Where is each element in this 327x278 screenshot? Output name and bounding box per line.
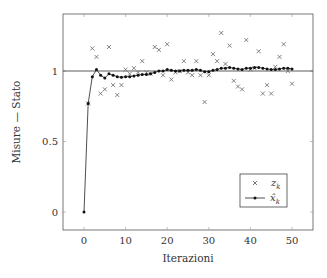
estimate-point xyxy=(257,66,260,69)
measurement-marker-icon xyxy=(153,45,157,49)
estimate-point xyxy=(112,74,115,77)
estimate-point xyxy=(191,69,194,72)
estimate-point xyxy=(220,67,223,70)
measurement-marker-icon xyxy=(182,59,186,63)
estimate-point xyxy=(232,67,235,70)
measurement-marker-icon xyxy=(240,87,244,91)
measurement-marker-icon xyxy=(244,38,248,42)
estimate-point xyxy=(207,70,210,73)
estimate-point xyxy=(203,70,206,73)
estimate-point xyxy=(270,68,273,71)
estimate-point xyxy=(216,68,219,71)
x-tick-label: 0 xyxy=(81,235,87,246)
measurement-marker-icon xyxy=(194,59,198,63)
measurement-marker-icon xyxy=(215,59,219,63)
measurement-marker-icon xyxy=(115,93,119,97)
measurement-marker-icon xyxy=(236,85,240,89)
x-tick-label: 10 xyxy=(119,235,132,246)
measurement-marker-icon xyxy=(111,83,115,87)
estimate-point xyxy=(141,73,144,76)
measurement-marker-icon xyxy=(140,59,144,63)
axis-ticks: 0102030405000.51 xyxy=(42,14,313,246)
measurement-marker-icon xyxy=(94,55,98,59)
y-axis-label: Misure — Stato xyxy=(10,81,22,164)
x-tick-label: 50 xyxy=(286,235,299,246)
estimate-point xyxy=(170,69,173,72)
estimate-point xyxy=(187,69,190,72)
estimate-point xyxy=(286,67,289,70)
estimate-point xyxy=(120,76,123,79)
x-tick-label: 40 xyxy=(244,235,257,246)
estimate-point xyxy=(87,102,90,105)
estimate-point xyxy=(83,211,86,214)
measurement-marker-icon xyxy=(90,46,94,50)
measurement-marker-icon xyxy=(219,31,223,35)
chart: 0102030405000.51 Iterazioni Misure — Sta… xyxy=(0,0,327,278)
estimate-point xyxy=(132,74,135,77)
estimate-point xyxy=(278,67,281,70)
estimate-point xyxy=(261,67,264,70)
estimate-point xyxy=(153,71,156,74)
estimate-point xyxy=(128,75,131,78)
estimate-point xyxy=(103,77,106,80)
measurement-marker-icon xyxy=(161,73,165,77)
estimate-point xyxy=(236,67,239,70)
legend: zk x̂k xyxy=(240,174,287,207)
measurement-marker-icon xyxy=(103,87,107,91)
estimate-point xyxy=(107,72,110,75)
estimate-point xyxy=(124,75,127,78)
estimate-point xyxy=(137,74,140,77)
estimate-point xyxy=(195,68,198,71)
measurement-marker-icon xyxy=(223,62,227,66)
measurement-marker-icon xyxy=(278,55,282,59)
measurement-marker-icon xyxy=(211,52,215,56)
measurement-marker-icon xyxy=(198,73,202,77)
estimate-point xyxy=(245,67,248,70)
estimate-point xyxy=(95,68,98,71)
measurement-marker-icon xyxy=(282,42,286,46)
measurement-marker-icon xyxy=(207,73,211,77)
estimate-point xyxy=(211,69,214,72)
estimate-point xyxy=(182,69,185,72)
x-tick-label: 30 xyxy=(202,235,215,246)
estimate-point xyxy=(145,73,148,76)
estimate-point xyxy=(224,67,227,70)
measurement-marker-icon xyxy=(157,48,161,52)
estimate-point xyxy=(274,68,277,71)
measurement-marker-icon xyxy=(165,42,169,46)
estimate-point xyxy=(253,66,256,69)
measurement-marker-icon xyxy=(99,92,103,96)
measurement-marker-icon xyxy=(257,49,261,53)
estimate-point xyxy=(249,67,252,70)
measurement-marker-icon xyxy=(269,92,273,96)
estimate-point xyxy=(282,67,285,70)
estimate-point xyxy=(166,68,169,71)
measurement-marker-icon xyxy=(119,83,123,87)
y-tick-label: 0 xyxy=(52,207,58,218)
y-tick-label: 0.5 xyxy=(42,136,58,147)
legend-box xyxy=(240,174,287,207)
y-tick-label: 1 xyxy=(52,66,58,77)
estimate-point xyxy=(291,67,294,70)
estimate-point xyxy=(116,75,119,78)
estimate-point xyxy=(174,70,177,73)
x-tick-label: 20 xyxy=(161,235,174,246)
measurement-marker-icon xyxy=(265,83,269,87)
estimate-point xyxy=(178,70,181,73)
measurement-marker-icon xyxy=(261,92,265,96)
estimate-point xyxy=(199,69,202,72)
x-axis-label: Iterazioni xyxy=(162,252,214,264)
measurement-marker-icon xyxy=(132,66,136,70)
estimate-point xyxy=(241,68,244,71)
estimate-point xyxy=(162,70,165,73)
measurement-marker-icon xyxy=(232,79,236,83)
estimate-point xyxy=(99,74,102,77)
measurement-marker-icon xyxy=(290,82,294,86)
measurement-marker-icon xyxy=(107,45,111,49)
estimate-point xyxy=(149,72,152,75)
estimate-point xyxy=(157,70,160,73)
estimate-point xyxy=(228,66,231,69)
estimate-point xyxy=(91,75,94,78)
measurement-marker-icon xyxy=(228,44,232,48)
measurement-marker-icon xyxy=(190,73,194,77)
